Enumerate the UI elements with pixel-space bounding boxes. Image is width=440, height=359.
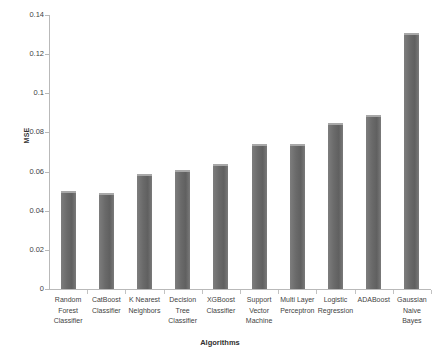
bar [137,174,152,289]
x-tick-mark [164,290,165,294]
x-tick-mark [278,290,279,294]
x-tick-mark [431,290,432,294]
bar [61,191,76,289]
x-tick-mark [202,290,203,294]
x-tick-mark [125,290,126,294]
y-tick-mark [45,250,49,251]
y-tick-mark [45,289,49,290]
bar [404,33,419,289]
x-tick-mark [316,290,317,294]
y-tick-mark [45,132,49,133]
bar [290,144,305,289]
y-tick-label: 0.12 [10,50,44,58]
x-tick-label-line: Naive [385,306,439,317]
bar-chart: MSE 00.020.040.060.080.10.120.14 RandomF… [0,0,440,359]
x-tick-label-line: Machine [232,316,286,327]
y-tick-label: 0.02 [10,246,44,254]
y-tick-label: 0.08 [10,128,44,136]
x-tick-label-line: Bayes [385,316,439,327]
x-tick-mark [87,290,88,294]
y-tick-label: 0.04 [10,207,44,215]
x-tick-mark [355,290,356,294]
y-tick-label: 0.14 [10,11,44,19]
plot-area [49,15,431,289]
bar [328,123,343,289]
x-tick-label: GaussianNaiveBayes [385,295,439,327]
x-tick-mark [240,290,241,294]
y-tick-mark [45,211,49,212]
bar [175,170,190,289]
x-tick-label-line: Classifier [156,316,210,327]
bar [252,144,267,289]
y-tick-mark [45,15,49,16]
x-axis-title: Algorithms [0,338,440,347]
bar [366,115,381,289]
x-tick-label-line: Gaussian [385,295,439,306]
y-tick-label: 0.06 [10,168,44,176]
bar [99,193,114,289]
x-tick-mark [393,290,394,294]
bar [213,164,228,289]
x-tick-label-line: Regression [309,306,363,317]
y-tick-mark [45,93,49,94]
y-tick-mark [45,172,49,173]
x-tick-label-line: Classifier [41,316,95,327]
y-tick-label: 0 [10,285,44,293]
y-tick-label: 0.1 [10,89,44,97]
y-tick-mark [45,54,49,55]
y-axis-tick-labels: 00.020.040.060.080.10.120.14 [10,0,44,300]
